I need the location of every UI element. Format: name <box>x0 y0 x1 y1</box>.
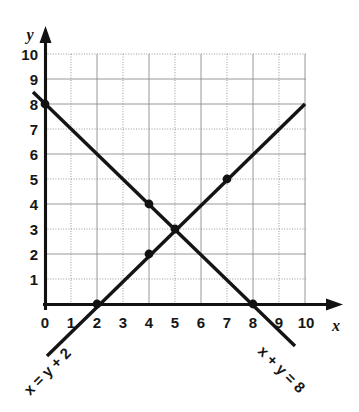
x-tick-label-7: 7 <box>223 314 231 331</box>
coordinate-plane-figure: 10 9 8 7 6 5 4 3 2 1 0 1 2 3 4 5 6 7 8 9… <box>0 0 359 412</box>
x-tick-label-3: 3 <box>119 314 127 331</box>
data-point-intersection-5-3 <box>171 225 180 234</box>
x-tick-label-5: 5 <box>171 314 179 331</box>
y-tick-label-7: 7 <box>30 121 38 138</box>
x-axis-arrow-icon <box>326 299 343 311</box>
x-tick-label-1: 1 <box>67 314 75 331</box>
line-label-x-plus-y-equals-8: x + y = 8 <box>255 342 309 396</box>
data-point-4-4 <box>145 200 154 209</box>
x-tick-label-0: 0 <box>41 314 49 331</box>
x-axis-label: x <box>331 317 340 334</box>
y-tick-label-4: 4 <box>30 196 39 213</box>
y-tick-label-5: 5 <box>30 171 38 188</box>
x-tick-label-9: 9 <box>275 314 283 331</box>
y-tick-label-10: 10 <box>21 46 38 63</box>
y-tick-labels: 10 9 8 7 6 5 4 3 2 1 <box>21 46 38 288</box>
series-descending-line <box>33 92 295 346</box>
y-axis-arrow-icon <box>40 26 52 43</box>
graph-svg: 10 9 8 7 6 5 4 3 2 1 0 1 2 3 4 5 6 7 8 9… <box>0 0 359 412</box>
x-tick-label-6: 6 <box>197 314 205 331</box>
line-x-plus-y-equals-8 <box>33 92 295 346</box>
grid-group <box>45 54 306 304</box>
x-tick-label-10: 10 <box>298 314 315 331</box>
x-tick-label-2: 2 <box>93 314 101 331</box>
y-axis-label: y <box>24 26 34 44</box>
y-tick-label-1: 1 <box>30 271 38 288</box>
y-tick-label-3: 3 <box>30 221 38 238</box>
data-point-2-0 <box>93 300 102 309</box>
x-tick-label-8: 8 <box>249 314 257 331</box>
data-point-0-8 <box>41 100 50 109</box>
y-tick-label-2: 2 <box>30 246 38 263</box>
data-point-4-2 <box>145 250 154 259</box>
y-tick-label-8: 8 <box>30 96 38 113</box>
axes-group <box>40 26 344 311</box>
data-point-7-5 <box>223 175 232 184</box>
data-point-8-0 <box>249 300 258 309</box>
y-tick-label-6: 6 <box>30 146 38 163</box>
y-tick-label-9: 9 <box>30 71 38 88</box>
x-tick-label-4: 4 <box>145 314 154 331</box>
line-label-x-equals-y-plus-2: x = y + 2 <box>20 344 74 398</box>
